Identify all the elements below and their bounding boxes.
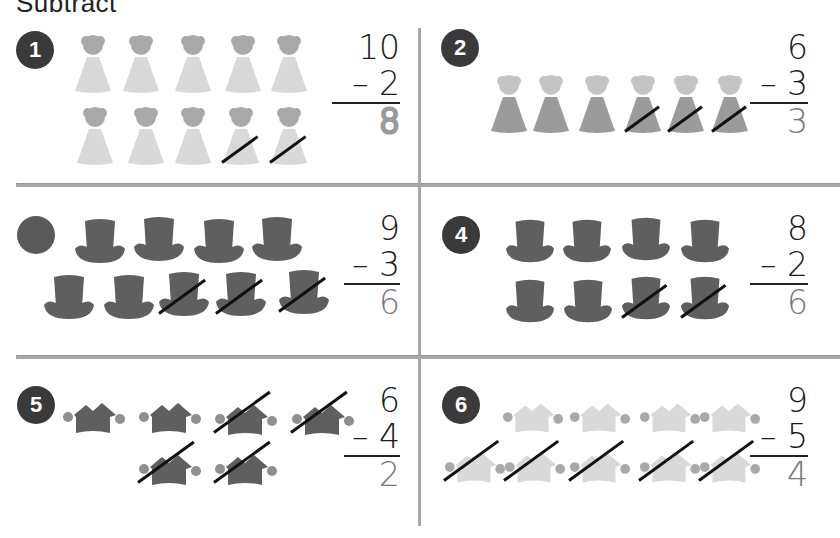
minuend: 6 [728, 30, 808, 66]
top-hat-icon [504, 217, 556, 265]
equation-3: 9 – 3 6 [320, 211, 400, 321]
jester-hat-icon [697, 401, 761, 435]
top-hat-icon [504, 277, 556, 325]
top-hat-icon [250, 215, 304, 263]
jester-hat-icon [567, 401, 631, 435]
answer: 8 [320, 104, 400, 140]
party-hat-icon [222, 31, 264, 95]
party-hat-icon [125, 103, 167, 167]
party-hat-icon [172, 103, 214, 167]
party-hat-icon [172, 31, 214, 95]
equation-4: 8 – 2 6 [728, 211, 808, 321]
problem-number-badge: 2 [441, 29, 479, 67]
minuend: 9 [320, 211, 400, 247]
top-hat-icon [192, 217, 246, 265]
problem-number-badge: 1 [16, 31, 54, 69]
party-hat-icon [531, 70, 571, 136]
party-hat-icon [120, 31, 162, 95]
answer: 2 [320, 457, 400, 493]
party-hat-icon [577, 70, 617, 136]
top-hat-icon [132, 215, 186, 263]
party-hat-icon [268, 31, 310, 95]
answer: 6 [728, 285, 808, 321]
top-hat-icon [562, 277, 614, 325]
jester-hat-icon [60, 401, 126, 435]
problem-number-badge [17, 216, 55, 254]
jester-hat-icon [500, 401, 564, 435]
top-hat-icon [102, 273, 156, 321]
party-hat-icon [74, 103, 116, 167]
problem-number-badge: 6 [442, 386, 480, 424]
jester-hat-icon [637, 401, 701, 435]
subtrahend: – 3 [320, 247, 400, 283]
minuend: 8 [728, 211, 808, 247]
top-hat-icon [620, 215, 672, 263]
subtrahend: – 2 [320, 66, 400, 102]
equation-1: 10 – 2 8 [320, 30, 400, 140]
subtrahend: – 2 [728, 247, 808, 283]
problem-number-badge: 5 [17, 386, 55, 424]
jester-hat-icon [136, 401, 202, 435]
party-hat-icon [72, 31, 114, 95]
party-hat-icon [489, 70, 529, 136]
problem-number-badge: 4 [442, 216, 480, 254]
top-hat-icon [561, 217, 613, 265]
answer: 6 [320, 285, 400, 321]
top-hat-icon [42, 273, 96, 321]
top-hat-icon [679, 217, 731, 265]
top-hat-icon [73, 217, 127, 265]
minuend: 10 [320, 30, 400, 66]
